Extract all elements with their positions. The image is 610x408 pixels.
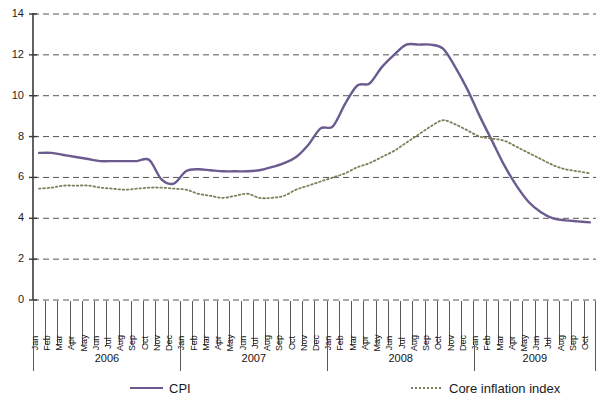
x-axis-month-cell: Oct <box>584 301 596 345</box>
y-axis-tick-label: 12 <box>2 49 24 60</box>
legend-label-cpi: CPI <box>169 381 191 396</box>
legend-item-cpi: CPI <box>130 378 191 398</box>
inflation-line-chart: 02468101214 JanFebMarAprMayJunJulAugSepO… <box>0 0 610 408</box>
y-axis-tick-label: 14 <box>2 8 24 19</box>
x-axis-year-cell: 2008 <box>327 345 474 371</box>
legend-item-core-inflation: Core inflation index <box>411 378 560 398</box>
y-axis-tick-label: 4 <box>2 212 24 223</box>
y-axis-tick-label: 2 <box>2 253 24 264</box>
x-axis-year-label: 2006 <box>95 352 119 364</box>
legend-line-solid-icon <box>130 387 163 389</box>
x-axis-year-label: 2009 <box>523 352 547 364</box>
legend-line-dotted-icon <box>411 387 441 389</box>
series-line-core-inflation <box>39 120 590 198</box>
chart-legend: CPI Core inflation index <box>0 378 610 404</box>
x-axis-month-row: JanFebMarAprMayJunJulAugSepOctNovDecJanF… <box>33 301 596 345</box>
x-axis-year-cell: 2007 <box>180 345 327 371</box>
x-axis-year-row: 2006200720082009 <box>33 345 596 371</box>
y-axis-tick-label: 0 <box>2 294 24 305</box>
x-axis-year-label: 2008 <box>388 352 412 364</box>
legend-label-core-inflation: Core inflation index <box>449 381 560 396</box>
series-line-cpi <box>39 44 590 222</box>
y-axis-tick-label: 6 <box>2 171 24 182</box>
x-axis-year-label: 2007 <box>242 352 266 364</box>
x-axis-year-cell: 2006 <box>33 345 180 371</box>
y-axis-tick-label: 8 <box>2 131 24 142</box>
y-axis-tick-label: 10 <box>2 90 24 101</box>
x-axis-year-cell: 2009 <box>474 345 596 371</box>
